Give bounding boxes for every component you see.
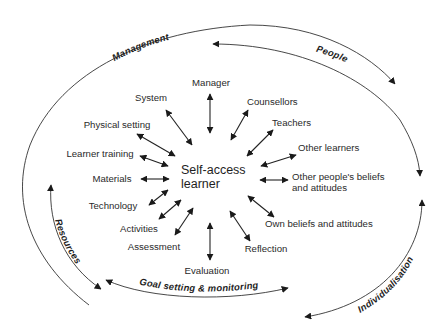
spoke-materials: Materials xyxy=(93,173,169,184)
spoke-evaluation: Evaluation xyxy=(185,223,230,276)
spoke-label: Activities xyxy=(120,223,158,234)
spoke-manager: Manager xyxy=(192,77,231,133)
spoke-label: System xyxy=(135,92,167,103)
spoke-label: Own beliefs and attitudes xyxy=(265,218,373,229)
spoke-label: Materials xyxy=(93,173,132,184)
spoke-label: Reflection xyxy=(245,243,288,254)
spoke-learner-training: Learner training xyxy=(66,148,168,166)
spoke-label-line2: and attitudes xyxy=(292,182,347,193)
spoke-other-peoples-beliefs: Other people's beliefs and attitudes xyxy=(260,171,385,193)
spoke-label: Other learners xyxy=(298,142,360,153)
individualisation-arc-label: Individualisation xyxy=(356,254,416,314)
spoke-label: Technology xyxy=(89,200,138,211)
self-access-learner-diagram: Management People Individualisation Goal… xyxy=(0,0,438,333)
spoke-technology: Technology xyxy=(89,190,168,211)
center-label-line2: learner xyxy=(181,177,220,191)
resources-arc-label: Resources xyxy=(53,217,84,265)
spoke-label-line1: Other people's beliefs xyxy=(292,171,385,182)
spoke-label: Assessment xyxy=(128,241,181,252)
center-node: Self-access learner xyxy=(181,163,246,191)
spoke-other-learners: Other learners xyxy=(261,142,360,166)
center-label-line1: Self-access xyxy=(181,163,246,177)
spoke-label: Counsellors xyxy=(247,96,298,107)
management-arc-label: Management xyxy=(110,31,171,63)
spoke-label: Teachers xyxy=(272,117,311,128)
goal-setting-arc-label: Goal setting & monitoring xyxy=(139,276,259,294)
spoke-label: Physical setting xyxy=(84,119,151,130)
spoke-label: Manager xyxy=(192,77,231,88)
people-arc xyxy=(213,44,420,176)
spoke-label: Learner training xyxy=(66,148,133,159)
spoke-label: Evaluation xyxy=(185,265,230,276)
spoke-own-beliefs: Own beliefs and attitudes xyxy=(248,196,373,229)
